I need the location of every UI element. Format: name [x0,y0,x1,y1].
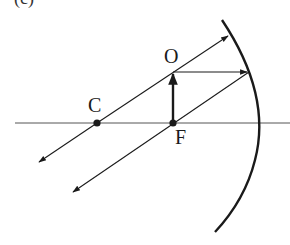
ray-reflected-through-f [73,72,249,192]
label-o: O [164,45,178,67]
ray-through-c-incident [97,36,228,123]
mirror-ray-diagram: (c) C F O [0,0,290,245]
ray-through-c-reflected [39,123,97,162]
panel-label: (c) [14,0,34,9]
label-c: C [88,94,101,116]
label-f: F [175,126,186,148]
center-of-curvature-point [93,119,100,126]
concave-mirror [215,20,259,232]
